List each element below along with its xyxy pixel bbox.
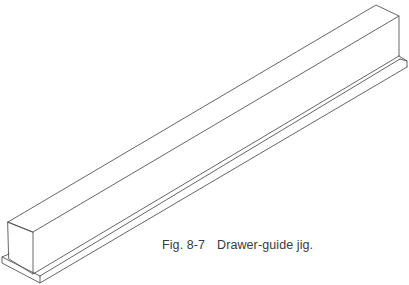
block-top-face [8, 5, 399, 232]
base-right-top [399, 56, 407, 61]
figure-title: Drawer-guide jig. [217, 238, 313, 252]
figure-number: Fig. 8-7 [162, 238, 217, 252]
figure-caption: Fig. 8-7Drawer-guide jig. [162, 238, 313, 252]
base-end-face [2, 257, 40, 283]
